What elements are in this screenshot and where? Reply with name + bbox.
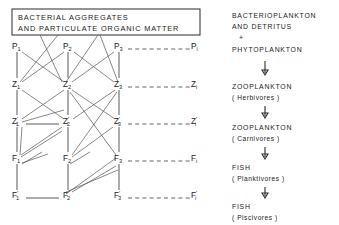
right-bacterioplankton-line2: AND DETRITUS	[232, 23, 292, 30]
node-Z3-prime: Z'3	[114, 116, 121, 127]
food-web-diagram: BACTERIAL AGGREGATES AND PARTICULATE ORG…	[0, 0, 339, 225]
right-fish-piscivores: FISH	[232, 203, 251, 210]
node-Zi: Zi	[191, 80, 197, 90]
organic-matter-box-line1: BACTERIAL AGGREGATES	[18, 13, 129, 22]
right-plus-sign: +	[239, 34, 244, 41]
node-F1: F1	[12, 154, 20, 164]
right-zooplankton-carnivores-paren: ( Carnivores )	[232, 135, 280, 143]
right-fish-piscivores-paren: ( Piscivores )	[232, 214, 278, 222]
right-phytoplankton: PHYTOPLANKTON	[232, 46, 302, 53]
right-fish-planktivores-paren: ( Planktivores )	[232, 175, 285, 183]
node-F2-prime: F'2	[63, 190, 70, 201]
organic-matter-box-line2: AND PARTICULATE ORGANIC MATTER	[18, 24, 179, 33]
right-zooplankton-carnivores: ZOOPLANKTON	[232, 124, 292, 131]
node-F2: F2	[63, 154, 71, 164]
node-F3-prime: F'3	[114, 190, 121, 201]
node-P1: P1	[12, 42, 21, 52]
node-P3: P3	[114, 42, 123, 52]
right-zooplankton-herbivores: ZOOPLANKTON	[232, 83, 292, 90]
node-F1-prime: F'1	[12, 190, 19, 201]
right-bacterioplankton-line1: BACTERIOPLANKTON	[232, 12, 316, 19]
arrow-down-3	[262, 147, 268, 159]
right-zooplankton-herbivores-paren: ( Herbivores )	[232, 94, 280, 102]
node-row-Zprime: Z'1 Z'2 Z'3 Z'i	[12, 116, 197, 127]
node-Z2: Z2	[63, 80, 71, 90]
node-row-Fprime: F'1 F'2 F'3 F'i	[12, 190, 197, 201]
node-Z1-prime: Z'1	[12, 116, 19, 127]
arrow-down-1	[262, 61, 268, 75]
right-fish-planktivores: FISH	[232, 164, 251, 171]
node-Fi: Fi	[191, 154, 197, 164]
node-F3: F3	[114, 154, 122, 164]
node-P2: P2	[63, 42, 72, 52]
arrow-down-2	[262, 106, 268, 118]
box-feed-edges	[20, 35, 118, 82]
figure-canvas: BACTERIAL AGGREGATES AND PARTICULATE ORG…	[0, 0, 339, 225]
node-row-Z: Z1 Z2 Z3 Zi	[12, 80, 197, 90]
node-row-F: F1 F2 F3 Fi	[12, 154, 197, 164]
node-Pi: Pi	[191, 42, 198, 52]
node-Z1: Z1	[12, 80, 20, 90]
node-Zi-prime: Z'i	[191, 116, 197, 127]
node-Z3: Z3	[114, 80, 122, 90]
arrow-down-4	[262, 187, 268, 198]
node-Z2-prime: Z'2	[63, 116, 70, 127]
ellipsis-dashed-edges	[128, 49, 190, 198]
node-Fi-prime: F'i	[191, 190, 197, 201]
